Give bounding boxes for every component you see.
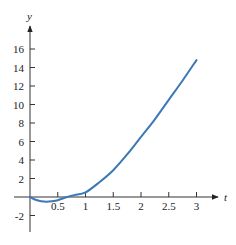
x-tick-label: 2.5 [162, 200, 176, 212]
chart-svg: 0.511.522.53-2246810121416 t y [0, 0, 236, 245]
x-tick-label: 1 [83, 200, 89, 212]
y-tick-label: 6 [19, 136, 25, 148]
y-tick-label: 16 [13, 43, 25, 55]
y-tick-label: 2 [19, 173, 25, 185]
x-tick-label: 1.5 [106, 200, 120, 212]
y-tick-label: 12 [13, 80, 24, 92]
y-tick-label: 4 [19, 154, 25, 166]
x-tick-label: 3 [194, 200, 200, 212]
ticks: 0.511.522.53-2246810121416 [13, 43, 200, 222]
data-curve [30, 60, 197, 202]
x-tick-label: 2 [138, 200, 144, 212]
y-tick-label: -2 [15, 210, 24, 222]
y-tick-label: 8 [19, 117, 25, 129]
y-tick-label: 10 [13, 99, 25, 111]
y-axis-label: y [26, 10, 32, 22]
y-tick-label: 14 [13, 62, 25, 74]
x-axis-label: t [224, 191, 228, 203]
